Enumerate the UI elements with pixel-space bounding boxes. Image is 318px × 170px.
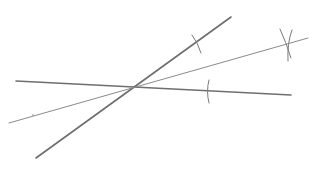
arc-intersect-2	[288, 30, 292, 61]
marks-layer	[32, 114, 34, 116]
bisector-line	[9, 38, 308, 123]
small-mark	[32, 114, 34, 116]
angle-bisector-diagram	[0, 0, 318, 170]
ray-a-line	[16, 81, 291, 95]
lines-layer	[9, 17, 308, 158]
